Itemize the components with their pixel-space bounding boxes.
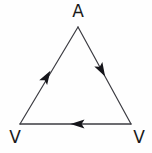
vertex-label-bottom-left: V <box>6 129 24 146</box>
diagram-canvas: A V V <box>0 0 152 153</box>
triangle-edges <box>20 27 131 124</box>
arrowhead-down-right-icon <box>94 62 109 79</box>
vertex-label-bottom-right: V <box>130 129 148 146</box>
vertex-label-apex: A <box>69 3 87 20</box>
edge-arrowheads <box>39 62 109 129</box>
